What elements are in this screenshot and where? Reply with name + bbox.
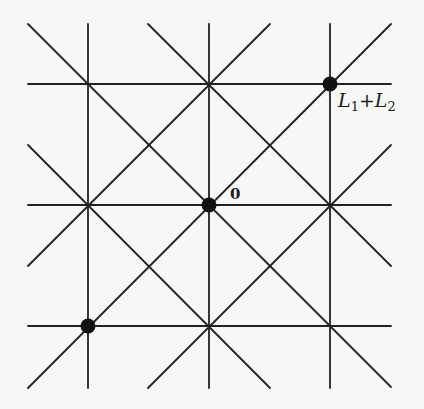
lattice-point-minus-L1-minus-L2: [81, 319, 96, 334]
sum-label-plus: +: [359, 89, 375, 111]
origin-label: 0: [230, 185, 240, 203]
lattice-point-L1-plus-L2: [323, 77, 338, 92]
svg-text:L1+L2: L1+L2: [337, 89, 396, 114]
lattice-point-origin: [202, 198, 217, 213]
sum-label-sub2: 2: [387, 99, 395, 114]
sum-label-L2: L: [374, 89, 388, 111]
sum-label: L1+L2: [337, 89, 396, 114]
lattice-diagram: 0 L1+L2: [0, 0, 424, 409]
sum-label-L1: L: [337, 89, 351, 111]
sum-label-sub1: 1: [351, 99, 359, 114]
